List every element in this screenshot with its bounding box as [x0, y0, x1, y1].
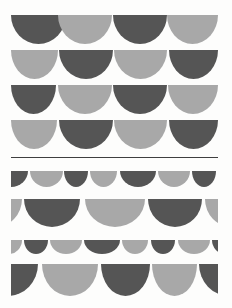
- semicircle-fill: [11, 120, 57, 149]
- semicircle-fill: [11, 85, 56, 114]
- semicircle-fill: [113, 85, 167, 114]
- semicircle-fill: [59, 120, 113, 149]
- semicircle-fill: [169, 50, 218, 79]
- semicircle-dark: [11, 264, 38, 296]
- semicircle-fill: [24, 199, 80, 227]
- semicircle-fill: [212, 240, 218, 254]
- semicircle-fill: [113, 15, 167, 44]
- semicircle-fill: [24, 240, 48, 254]
- semicircle-fill: [85, 199, 145, 227]
- semicircle-dark: [169, 120, 218, 149]
- semicircle-dark: [24, 240, 48, 254]
- semicircle-light: [11, 120, 57, 149]
- semicircle-dark: [120, 171, 156, 187]
- semicircle-dark: [212, 240, 218, 254]
- semicircle-fill: [151, 240, 175, 254]
- semicircle-fill: [152, 264, 197, 296]
- semicircle-fill: [114, 120, 167, 149]
- semicircle-light: [11, 240, 22, 254]
- semicircle-light: [42, 264, 98, 296]
- divider-line: [11, 157, 218, 158]
- semicircle-fill: [192, 171, 216, 187]
- semicircle-fill: [158, 171, 190, 187]
- semicircle-fill: [114, 50, 167, 79]
- semicircle-dark: [199, 264, 218, 296]
- semicircle-dark: [151, 240, 175, 254]
- semicircle-fill: [167, 15, 218, 44]
- semicircle-light: [90, 171, 117, 187]
- semicircle-fill: [178, 240, 210, 254]
- semicircle-light: [152, 264, 197, 296]
- semicircle-light: [58, 15, 112, 44]
- semicircle-dark: [169, 50, 218, 79]
- semicircle-light: [168, 85, 218, 114]
- semicircle-fill: [58, 15, 112, 44]
- semicircle-fill: [120, 171, 156, 187]
- semicircle-dark: [84, 240, 120, 254]
- semicircle-fill: [168, 85, 218, 114]
- semicircle-light: [58, 85, 112, 114]
- semicircle-light: [11, 50, 58, 79]
- semicircle-light: [30, 171, 63, 187]
- semicircle-fill: [199, 264, 218, 296]
- semicircle-dark: [192, 171, 216, 187]
- semicircle-dark: [24, 199, 80, 227]
- semicircle-fill: [58, 85, 112, 114]
- semicircle-fill: [84, 240, 120, 254]
- semicircle-light: [158, 171, 190, 187]
- semicircle-fill: [122, 240, 148, 254]
- semicircle-light: [85, 199, 145, 227]
- semicircle-fill: [90, 171, 117, 187]
- semicircle-fill: [11, 199, 22, 227]
- semicircle-light: [114, 50, 167, 79]
- semicircle-dark: [113, 15, 167, 44]
- semicircle-fill: [11, 171, 28, 187]
- semicircle-light: [114, 120, 167, 149]
- semicircle-light: [205, 199, 218, 227]
- artwork-canvas: Print of rows of scalloped semicircles (…: [0, 0, 232, 308]
- semicircle-fill: [64, 171, 88, 187]
- semicircle-light: [50, 240, 82, 254]
- semicircle-fill: [11, 50, 58, 79]
- semicircle-dark: [101, 264, 150, 296]
- semicircle-dark: [11, 85, 56, 114]
- semicircle-fill: [30, 171, 63, 187]
- semicircle-dark: [11, 171, 28, 187]
- semicircle-fill: [11, 264, 38, 296]
- semicircle-dark: [148, 199, 202, 227]
- semicircle-light: [11, 199, 22, 227]
- semicircle-light: [122, 240, 148, 254]
- semicircle-dark: [59, 120, 113, 149]
- semicircle-dark: [64, 171, 88, 187]
- semicircle-fill: [11, 240, 22, 254]
- semicircle-dark: [59, 50, 113, 79]
- semicircle-dark: [113, 85, 167, 114]
- semicircle-fill: [169, 120, 218, 149]
- semicircle-fill: [205, 199, 218, 227]
- semicircle-fill: [42, 264, 98, 296]
- semicircle-fill: [148, 199, 202, 227]
- semicircle-light: [167, 15, 218, 44]
- semicircle-fill: [59, 50, 113, 79]
- semicircle-fill: [101, 264, 150, 296]
- semicircle-fill: [50, 240, 82, 254]
- semicircle-light: [178, 240, 210, 254]
